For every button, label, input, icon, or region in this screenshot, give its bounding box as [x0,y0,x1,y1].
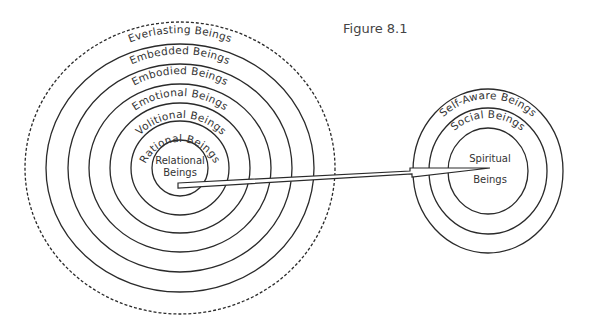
figure-canvas: Figure 8.1 Rational Beings Volitional Be… [0,0,600,326]
center-label-relational: Relational [155,155,205,166]
ring-label-embedded: Embedded Beings [128,44,233,66]
center-label-relational-beings: Beings [163,167,197,178]
left-diagram: Rational Beings Volitional Beings Emotio… [25,22,335,314]
center-label-spiritual: Spiritual [469,153,511,164]
ring-label-social: Social Beings [448,108,528,133]
figure-title: Figure 8.1 [343,21,408,36]
center-label-spiritual-beings: Beings [473,174,507,185]
